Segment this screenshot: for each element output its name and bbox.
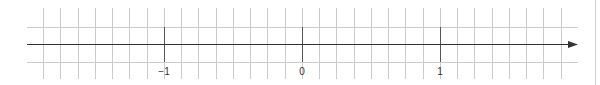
tick-label-minus-one: −1 — [158, 66, 169, 78]
right-border-divider — [595, 0, 596, 85]
arrow-right-icon — [568, 41, 578, 48]
tick-label-zero: 0 — [299, 66, 305, 78]
tick-label-one: 1 — [437, 66, 443, 78]
